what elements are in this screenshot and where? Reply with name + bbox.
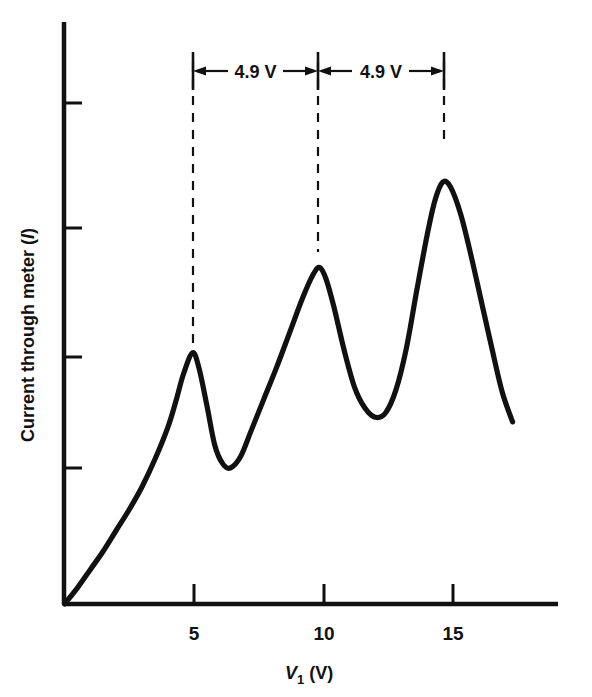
x-axis-title-unit-text: (V) [309, 663, 333, 683]
y-axis-ticks [64, 103, 82, 468]
current-curve [65, 181, 513, 604]
franck-hertz-figure: 5 10 15 V1 (V) Current through meter (I)… [0, 0, 592, 697]
y-axis-title: Current through meter (I) [18, 228, 38, 442]
arrow-left-icon-2 [318, 67, 331, 76]
arrow-right-icon-2 [431, 67, 444, 76]
dimension-segment-1: 4.9 V [193, 62, 318, 82]
x-tick-label-10: 10 [313, 623, 334, 644]
x-tick-label-5: 5 [189, 623, 200, 644]
x-tick-label-15: 15 [442, 623, 464, 644]
y-axis-title-text: Current through meter ( [18, 239, 38, 442]
dimension-segment-2: 4.9 V [318, 62, 444, 82]
x-axis-title: V1 (V) [285, 663, 333, 687]
dimension-annotations: 4.9 V 4.9 V [193, 52, 444, 90]
peak-marker-lines [193, 62, 444, 352]
plot-canvas: 5 10 15 V1 (V) Current through meter (I)… [0, 0, 592, 697]
x-axis-title-subscript: 1 [297, 672, 304, 687]
x-axis-ticks [194, 584, 453, 604]
arrow-left-icon [193, 67, 206, 76]
y-axis-title-close: ) [18, 228, 38, 234]
svg-text:Current through meter (I): Current through meter (I) [18, 228, 38, 442]
dimension-label-2: 4.9 V [360, 62, 402, 82]
arrow-right-icon [305, 67, 318, 76]
svg-text:V1 (V): V1 (V) [285, 663, 333, 687]
x-axis-tick-labels: 5 10 15 [189, 623, 464, 644]
dimension-label-1: 4.9 V [234, 62, 276, 82]
